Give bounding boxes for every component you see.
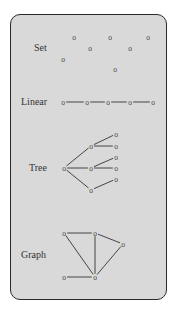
- tree-node: o: [114, 175, 118, 184]
- linear-node: o: [61, 98, 65, 107]
- set-diagram: Set ooooooo: [34, 33, 150, 74]
- graph-edge: [66, 236, 93, 275]
- linear-node: o: [128, 98, 132, 107]
- tree-node: o: [114, 142, 118, 151]
- set-node: o: [108, 33, 112, 42]
- graph-edge: [97, 246, 121, 274]
- graph-node: o: [62, 273, 66, 282]
- set-node: o: [113, 65, 117, 74]
- tree-node: o: [62, 164, 66, 173]
- graph-edge: [98, 234, 120, 243]
- set-node: o: [128, 44, 132, 53]
- tree-node: o: [89, 164, 93, 173]
- tree-edge: [94, 180, 113, 188]
- tree-edge: [94, 158, 113, 166]
- tree-node: o: [89, 142, 93, 151]
- linear-node: o: [85, 98, 89, 107]
- tree-node: o: [114, 153, 118, 162]
- tree-edge: [94, 135, 113, 144]
- tree-node: o: [114, 130, 118, 139]
- graph-node: o: [62, 229, 66, 238]
- linear-node: o: [151, 98, 155, 107]
- set-node: o: [146, 33, 150, 42]
- tree-edge: [66, 170, 88, 188]
- set-node: o: [61, 55, 65, 64]
- set-node: o: [88, 44, 92, 53]
- graph-diagram: Graph ooooo: [21, 229, 125, 282]
- tree-edge: [66, 148, 88, 166]
- graph-node: o: [93, 229, 97, 238]
- data-structures-diagram: Set ooooooo Linear ooooo Tree ooooooooo …: [0, 0, 177, 318]
- graph-label: Graph: [21, 249, 46, 260]
- linear-node: o: [106, 98, 110, 107]
- set-label: Set: [34, 42, 47, 53]
- tree-label: Tree: [29, 162, 48, 173]
- tree-diagram: Tree ooooooooo: [29, 130, 118, 195]
- graph-node: o: [93, 273, 97, 282]
- tree-node: o: [89, 186, 93, 195]
- set-node: o: [72, 33, 76, 42]
- graph-node: o: [121, 240, 125, 249]
- linear-label: Linear: [21, 96, 48, 107]
- linear-diagram: Linear ooooo: [21, 96, 155, 107]
- tree-node: o: [114, 164, 118, 173]
